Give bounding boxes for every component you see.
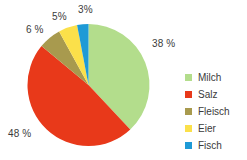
- slice-label-eier: 5%: [52, 11, 67, 22]
- chart-legend: MilchSalzFleischEierFisch: [185, 69, 247, 154]
- legend-item-label: Milch: [198, 73, 221, 83]
- slice-label-milch: 38 %: [152, 38, 175, 49]
- legend-swatch-icon: [185, 74, 192, 81]
- pie-slice-group: [27, 24, 149, 146]
- legend-item-salz[interactable]: Salz: [185, 86, 247, 103]
- legend-item-label: Eier: [198, 124, 216, 134]
- legend-item-label: Fisch: [198, 141, 222, 151]
- legend-item-fisch[interactable]: Fisch: [185, 137, 247, 154]
- legend-item-label: Fleisch: [198, 107, 230, 117]
- legend-item-label: Salz: [198, 90, 217, 100]
- legend-swatch-icon: [185, 91, 192, 98]
- legend-item-fleisch[interactable]: Fleisch: [185, 103, 247, 120]
- legend-swatch-icon: [185, 108, 192, 115]
- legend-item-eier[interactable]: Eier: [185, 120, 247, 137]
- pie-plot-area: 38 % 48 % 6 % 5% 3%: [0, 0, 172, 160]
- legend-item-milch[interactable]: Milch: [185, 69, 247, 86]
- legend-swatch-icon: [185, 125, 192, 132]
- slice-label-fleisch: 6 %: [26, 24, 44, 35]
- slice-label-fisch: 3%: [78, 4, 93, 15]
- legend-swatch-icon: [185, 142, 192, 149]
- slice-label-salz: 48 %: [8, 128, 31, 139]
- pie-chart: 38 % 48 % 6 % 5% 3% MilchSalzFleischEier…: [0, 0, 247, 160]
